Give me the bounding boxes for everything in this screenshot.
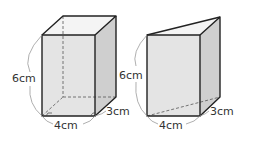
triangular-prism: 6cm 4cm 3cm [119, 17, 234, 132]
prisms-diagram: 6cm 4cm 3cm 6cm 4cm 3cm [0, 0, 253, 146]
height-label: 6cm [119, 69, 143, 82]
depth-label: 3cm [106, 105, 130, 118]
front-face [42, 35, 95, 116]
rectangular-prism: 6cm 4cm 3cm [12, 16, 130, 132]
width-label: 4cm [159, 119, 183, 132]
front-face [147, 35, 200, 116]
width-label: 4cm [54, 119, 78, 132]
depth-label: 3cm [210, 105, 234, 118]
height-label: 6cm [12, 72, 36, 85]
